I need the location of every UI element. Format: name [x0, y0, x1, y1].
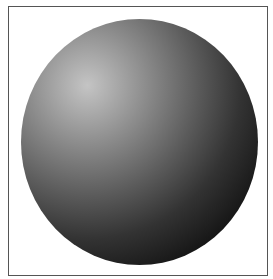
shaded-sphere — [21, 19, 258, 265]
image-frame — [8, 6, 268, 276]
